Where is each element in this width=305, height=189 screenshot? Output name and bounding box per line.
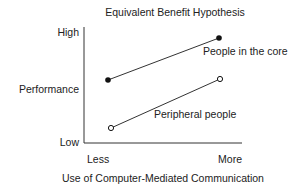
chart: Equivalent Benefit Hypothesis High Perfo…	[0, 0, 305, 189]
open-circle-marker	[217, 76, 222, 81]
y-axis-label: Performance	[19, 83, 79, 95]
y-tick-low: Low	[60, 136, 80, 148]
x-tick-less: Less	[87, 153, 109, 165]
chart-title: Equivalent Benefit Hypothesis	[105, 6, 245, 18]
series-core: People in the core	[105, 35, 288, 83]
x-axis-label: Use of Computer-Mediated Communication	[62, 172, 264, 184]
series-label-core: People in the core	[203, 45, 288, 57]
filled-circle-marker	[216, 35, 222, 41]
x-tick-more: More	[218, 153, 242, 165]
series-peripheral: Peripheral people	[108, 76, 236, 130]
y-tick-high: High	[57, 26, 79, 38]
filled-circle-marker	[105, 77, 111, 83]
series-label-peripheral: Peripheral people	[154, 108, 236, 120]
open-circle-marker	[108, 125, 113, 130]
